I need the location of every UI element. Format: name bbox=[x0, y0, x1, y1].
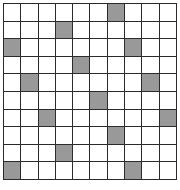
grid-cell-filled[interactable] bbox=[107, 127, 124, 145]
grid-cell-empty[interactable] bbox=[73, 162, 90, 180]
grid-cell-empty[interactable] bbox=[21, 127, 38, 145]
grid-cell-filled[interactable] bbox=[142, 74, 159, 92]
grid-cell-empty[interactable] bbox=[55, 109, 72, 127]
grid-cell-empty[interactable] bbox=[125, 56, 142, 74]
grid-cell-empty[interactable] bbox=[107, 56, 124, 74]
grid-cell-empty[interactable] bbox=[73, 21, 90, 39]
grid-cell-empty[interactable] bbox=[38, 39, 55, 57]
grid-cell-filled[interactable] bbox=[4, 162, 21, 180]
grid-cell-empty[interactable] bbox=[90, 21, 107, 39]
grid-cell-empty[interactable] bbox=[55, 162, 72, 180]
grid-cell-empty[interactable] bbox=[125, 74, 142, 92]
grid-cell-empty[interactable] bbox=[21, 162, 38, 180]
grid-cell-empty[interactable] bbox=[55, 56, 72, 74]
grid-cell-empty[interactable] bbox=[38, 56, 55, 74]
grid-cell-empty[interactable] bbox=[38, 162, 55, 180]
grid-cell-empty[interactable] bbox=[55, 74, 72, 92]
grid-cell-filled[interactable] bbox=[4, 39, 21, 57]
grid-cell-empty[interactable] bbox=[55, 127, 72, 145]
grid-cell-empty[interactable] bbox=[159, 127, 176, 145]
grid-cell-empty[interactable] bbox=[142, 91, 159, 109]
grid-cell-empty[interactable] bbox=[21, 4, 38, 22]
grid-cell-empty[interactable] bbox=[90, 127, 107, 145]
grid-cell-empty[interactable] bbox=[4, 21, 21, 39]
grid-cell-empty[interactable] bbox=[90, 74, 107, 92]
grid-cell-empty[interactable] bbox=[38, 127, 55, 145]
grid-cell-empty[interactable] bbox=[73, 144, 90, 162]
grid-cell-empty[interactable] bbox=[142, 162, 159, 180]
grid-cell-empty[interactable] bbox=[159, 162, 176, 180]
grid-cell-empty[interactable] bbox=[107, 21, 124, 39]
grid-cell-empty[interactable] bbox=[159, 4, 176, 22]
grid-cell-empty[interactable] bbox=[159, 91, 176, 109]
grid-cell-filled[interactable] bbox=[159, 109, 176, 127]
grid-cell-empty[interactable] bbox=[125, 91, 142, 109]
grid-cell-empty[interactable] bbox=[159, 56, 176, 74]
grid-cell-empty[interactable] bbox=[159, 144, 176, 162]
grid-cell-empty[interactable] bbox=[107, 109, 124, 127]
grid-cell-empty[interactable] bbox=[73, 74, 90, 92]
grid-cell-empty[interactable] bbox=[21, 91, 38, 109]
grid-cell-empty[interactable] bbox=[125, 127, 142, 145]
grid-cell-empty[interactable] bbox=[21, 56, 38, 74]
grid-cell-empty[interactable] bbox=[55, 39, 72, 57]
grid-cell-empty[interactable] bbox=[90, 39, 107, 57]
grid-cell-empty[interactable] bbox=[107, 39, 124, 57]
grid-cell-empty[interactable] bbox=[107, 144, 124, 162]
grid-cell-empty[interactable] bbox=[159, 21, 176, 39]
grid-cell-filled[interactable] bbox=[107, 4, 124, 22]
grid-cell-empty[interactable] bbox=[159, 74, 176, 92]
grid-cell-empty[interactable] bbox=[142, 4, 159, 22]
grid-cell-empty[interactable] bbox=[4, 74, 21, 92]
grid-cell-empty[interactable] bbox=[21, 39, 38, 57]
grid-cell-empty[interactable] bbox=[107, 162, 124, 180]
grid-cell-empty[interactable] bbox=[4, 127, 21, 145]
grid-cell-empty[interactable] bbox=[4, 109, 21, 127]
grid-cell-empty[interactable] bbox=[125, 4, 142, 22]
grid-cell-empty[interactable] bbox=[90, 144, 107, 162]
grid-cell-filled[interactable] bbox=[125, 39, 142, 57]
grid-cell-empty[interactable] bbox=[125, 109, 142, 127]
grid-cell-empty[interactable] bbox=[4, 91, 21, 109]
grid-cell-empty[interactable] bbox=[38, 91, 55, 109]
grid-cell-empty[interactable] bbox=[73, 91, 90, 109]
grid-cell-empty[interactable] bbox=[21, 21, 38, 39]
grid-cell-filled[interactable] bbox=[21, 74, 38, 92]
grid-cell-empty[interactable] bbox=[107, 74, 124, 92]
grid-cell-empty[interactable] bbox=[142, 21, 159, 39]
grid-cell-filled[interactable] bbox=[90, 91, 107, 109]
grid-cell-empty[interactable] bbox=[125, 21, 142, 39]
grid-cell-empty[interactable] bbox=[142, 39, 159, 57]
grid-cell-empty[interactable] bbox=[55, 4, 72, 22]
grid-cell-empty[interactable] bbox=[21, 144, 38, 162]
grid-cell-empty[interactable] bbox=[4, 4, 21, 22]
grid-cell-empty[interactable] bbox=[142, 56, 159, 74]
grid-cell-empty[interactable] bbox=[159, 39, 176, 57]
grid-cell-empty[interactable] bbox=[38, 74, 55, 92]
grid-cell-empty[interactable] bbox=[55, 91, 72, 109]
grid-cell-empty[interactable] bbox=[73, 127, 90, 145]
grid-cell-empty[interactable] bbox=[73, 39, 90, 57]
grid-cell-empty[interactable] bbox=[38, 21, 55, 39]
grid-cell-empty[interactable] bbox=[90, 109, 107, 127]
grid-cell-empty[interactable] bbox=[38, 4, 55, 22]
grid-cell-filled[interactable] bbox=[38, 109, 55, 127]
grid-cell-filled[interactable] bbox=[55, 21, 72, 39]
grid-cell-empty[interactable] bbox=[142, 144, 159, 162]
grid-cell-empty[interactable] bbox=[4, 144, 21, 162]
grid-cell-empty[interactable] bbox=[142, 109, 159, 127]
grid-cell-empty[interactable] bbox=[90, 162, 107, 180]
grid-cell-filled[interactable] bbox=[55, 144, 72, 162]
grid-cell-empty[interactable] bbox=[73, 4, 90, 22]
grid-cell-empty[interactable] bbox=[21, 109, 38, 127]
grid-cell-empty[interactable] bbox=[90, 56, 107, 74]
grid-cell-empty[interactable] bbox=[125, 144, 142, 162]
grid-cell-empty[interactable] bbox=[73, 109, 90, 127]
grid-cell-filled[interactable] bbox=[125, 162, 142, 180]
grid-cell-empty[interactable] bbox=[90, 4, 107, 22]
grid-cell-empty[interactable] bbox=[38, 144, 55, 162]
grid-cell-filled[interactable] bbox=[73, 56, 90, 74]
grid-cell-empty[interactable] bbox=[4, 56, 21, 74]
grid-cell-empty[interactable] bbox=[107, 91, 124, 109]
grid-cell-empty[interactable] bbox=[142, 127, 159, 145]
